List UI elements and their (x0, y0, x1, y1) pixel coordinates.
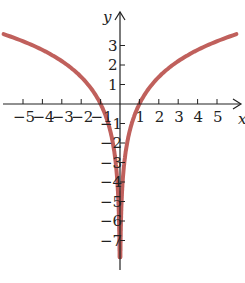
x-tick-label: 5 (213, 108, 223, 126)
x-tick-label: 3 (174, 108, 184, 126)
y-tick-label: −3 (100, 154, 122, 172)
x-axis-label: x (238, 110, 245, 128)
y-tick-label: 1 (108, 76, 118, 94)
x-tick-label: 4 (194, 108, 204, 126)
plot-area: −5−4−3−2−112345−7−6−5−4−3−2−1123yx (0, 0, 245, 283)
y-tick-label: −7 (100, 232, 122, 250)
x-tick-label: 1 (135, 108, 145, 126)
y-tick-label: 2 (108, 56, 118, 74)
y-tick-label: −4 (100, 173, 122, 191)
y-tick-label: −6 (100, 212, 122, 230)
y-tick-label: −2 (100, 134, 122, 152)
log-curve (120, 34, 236, 257)
y-axis-label: y (102, 8, 112, 26)
y-tick-label: −1 (100, 115, 122, 133)
chart: −5−4−3−2−112345−7−6−5−4−3−2−1123yx (0, 0, 245, 283)
y-tick-label: −5 (100, 193, 122, 211)
x-tick-label: 2 (155, 108, 165, 126)
y-tick-label: 3 (108, 37, 118, 55)
